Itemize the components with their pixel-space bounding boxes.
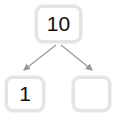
edge-root-to-left [24, 45, 56, 70]
edge-root-to-right [61, 45, 92, 70]
node-value: 10 [47, 12, 70, 36]
tree-node-right-child [72, 76, 111, 112]
tree-node-root: 10 [35, 5, 82, 43]
node-value: 1 [19, 82, 31, 106]
tree-node-left-child: 1 [5, 76, 45, 112]
